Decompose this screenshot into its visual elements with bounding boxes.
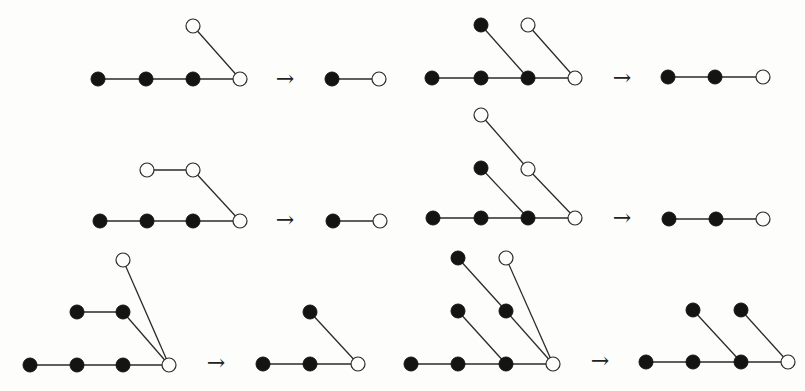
filled-vertex (686, 355, 700, 369)
graph-after (326, 214, 387, 228)
filled-vertex (639, 355, 653, 369)
filled-vertex (521, 71, 535, 85)
right-arrow-icon: → (276, 207, 294, 232)
graph-before (93, 163, 247, 228)
open-vertex (499, 251, 513, 265)
open-vertex (140, 163, 154, 177)
graph-before (91, 19, 247, 86)
right-arrow-icon: → (207, 350, 225, 375)
graph-after (639, 303, 795, 369)
filled-vertex (662, 212, 676, 226)
filled-vertex (474, 161, 488, 175)
right-arrow-icon: → (613, 65, 631, 90)
graph-after (256, 305, 365, 371)
graph-before (23, 253, 176, 372)
transition-r3-left: → (23, 253, 365, 375)
graph-edge (528, 25, 575, 78)
right-arrow-icon: → (276, 66, 294, 91)
filled-vertex (23, 358, 37, 372)
graph-edge (193, 26, 240, 79)
filled-vertex (303, 357, 317, 371)
open-vertex (521, 18, 535, 32)
filled-vertex (256, 357, 270, 371)
filled-vertex (734, 355, 748, 369)
filled-vertex (93, 214, 107, 228)
open-vertex (186, 163, 200, 177)
open-vertex (546, 357, 560, 371)
open-vertex (186, 19, 200, 33)
right-arrow-icon: → (591, 348, 609, 373)
graph-edge (481, 168, 528, 218)
filled-vertex (499, 304, 513, 318)
filled-vertex (708, 70, 722, 84)
filled-vertex (303, 305, 317, 319)
graph-reduction-diagram: →→→→→→ (0, 0, 805, 391)
transition-r1-left: → (91, 19, 386, 91)
filled-vertex (186, 72, 200, 86)
open-vertex (521, 162, 535, 176)
open-vertex (474, 108, 488, 122)
filled-vertex (116, 358, 130, 372)
filled-vertex (325, 72, 339, 86)
graph-after (325, 72, 386, 86)
graph-edge (481, 115, 528, 169)
filled-vertex (451, 251, 465, 265)
graph-edge (481, 25, 528, 78)
filled-vertex (499, 357, 513, 371)
filled-vertex (70, 358, 84, 372)
open-vertex (351, 357, 365, 371)
graph-edge (123, 312, 169, 365)
filled-vertex (661, 70, 675, 84)
filled-vertex (326, 214, 340, 228)
filled-vertex (425, 71, 439, 85)
filled-vertex (709, 212, 723, 226)
transition-r2-right: → (426, 108, 770, 230)
open-vertex (162, 358, 176, 372)
transition-r3-right: → (404, 251, 795, 373)
graph-edge (458, 311, 506, 364)
graph-edge (528, 169, 575, 218)
filled-vertex (686, 303, 700, 317)
graph-before (425, 18, 582, 85)
transition-r2-left: → (93, 163, 387, 232)
open-vertex (372, 72, 386, 86)
right-arrow-icon: → (613, 205, 631, 230)
open-vertex (233, 72, 247, 86)
transition-r1-right: → (425, 18, 770, 90)
filled-vertex (186, 214, 200, 228)
graph-edge (693, 310, 741, 362)
filled-vertex (474, 71, 488, 85)
filled-vertex (404, 357, 418, 371)
filled-vertex (426, 211, 440, 225)
open-vertex (756, 70, 770, 84)
open-vertex (756, 212, 770, 226)
filled-vertex (474, 211, 488, 225)
filled-vertex (139, 72, 153, 86)
filled-vertex (70, 305, 84, 319)
open-vertex (116, 253, 130, 267)
graph-edge (310, 312, 358, 364)
graph-before (426, 108, 582, 225)
open-vertex (233, 214, 247, 228)
graph-edge (458, 258, 506, 311)
filled-vertex (91, 72, 105, 86)
filled-vertex (451, 304, 465, 318)
graph-after (661, 70, 770, 84)
filled-vertex (521, 211, 535, 225)
filled-vertex (474, 18, 488, 32)
graph-edge (193, 170, 240, 221)
open-vertex (781, 355, 795, 369)
graph-before (404, 251, 560, 371)
filled-vertex (734, 303, 748, 317)
filled-vertex (451, 357, 465, 371)
open-vertex (568, 71, 582, 85)
filled-vertex (116, 305, 130, 319)
open-vertex (373, 214, 387, 228)
filled-vertex (140, 214, 154, 228)
graph-edge (741, 310, 788, 362)
open-vertex (568, 211, 582, 225)
graph-after (662, 212, 770, 226)
graph-edge (506, 311, 553, 364)
